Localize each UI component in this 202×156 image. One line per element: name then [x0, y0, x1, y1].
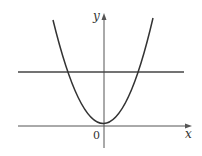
parabola-curve	[53, 18, 153, 124]
y-axis-label: y	[92, 9, 100, 23]
graph: y x 0	[0, 0, 202, 156]
x-axis-label: x	[185, 127, 192, 141]
y-axis-arrow-icon	[102, 13, 107, 20]
origin-label: 0	[93, 129, 100, 142]
